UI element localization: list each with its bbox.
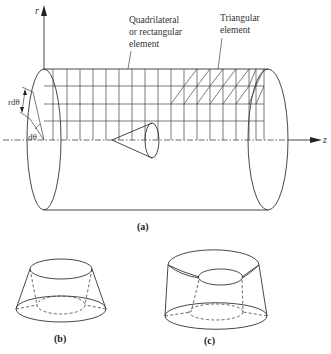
z-axis-arrowhead-icon [310, 137, 322, 143]
quad-callout-line-2: or rectangular [129, 27, 183, 37]
panel-a: r z [3, 5, 327, 233]
panel-c: (c) [165, 250, 267, 347]
z-axis-label: z [322, 134, 327, 145]
triangular-callout: Triangular element [218, 13, 261, 69]
r-axis-arrowhead-icon [41, 5, 47, 16]
panel-a-caption: (a) [137, 221, 149, 233]
quad-callout-line-1: Quadrilateral [129, 15, 179, 25]
z-axis: z [3, 134, 327, 145]
quadrilateral-callout: Quadrilateral or rectangular element [128, 15, 183, 69]
rdtheta-label: rdθ [8, 97, 20, 107]
panel-c-caption: (c) [204, 335, 215, 347]
triangular-elements [171, 69, 264, 104]
finite-element-cylinder-figure: r z [0, 0, 331, 354]
quad-callout-line-3: element [129, 39, 159, 49]
r-axis: r [35, 5, 47, 70]
panel-b-caption: (b) [54, 333, 66, 345]
tri-callout-line-2: element [220, 25, 250, 35]
tri-callout-line-1: Triangular [220, 13, 261, 23]
panel-b: (b) [16, 259, 106, 345]
dtheta-label: dθ [28, 132, 37, 142]
r-axis-label: r [35, 5, 39, 16]
mesh-grid [44, 69, 264, 140]
rdtheta-arrowhead-up-icon [23, 89, 27, 95]
angle-annotation: rdθ dθ [8, 87, 44, 142]
